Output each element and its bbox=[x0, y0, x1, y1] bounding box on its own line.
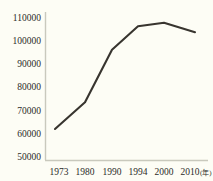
y-tick-label-70000: 70000 bbox=[17, 106, 41, 116]
x-tick-label-1973: 1973 bbox=[50, 167, 69, 177]
x-tick-label-1980: 1980 bbox=[76, 167, 95, 177]
x-tick-label-2000: 2000 bbox=[155, 167, 174, 177]
x-tick-label-1994: 1994 bbox=[129, 167, 148, 177]
y-tick-label-90000: 90000 bbox=[17, 59, 41, 69]
y-tick-label-100000: 100000 bbox=[13, 36, 42, 46]
x-tick-label-1990: 1990 bbox=[103, 167, 122, 177]
x-tick-label-2010: 2010 bbox=[181, 167, 200, 177]
y-tick-label-110000: 110000 bbox=[13, 13, 41, 23]
data-series-line bbox=[55, 23, 195, 129]
y-tick-label-50000: 50000 bbox=[17, 152, 41, 162]
y-tick-label-80000: 80000 bbox=[17, 82, 41, 92]
line-chart: 110000 100000 90000 80000 70000 60000 50… bbox=[0, 0, 213, 181]
y-tick-label-60000: 60000 bbox=[17, 129, 41, 139]
x-axis-unit-label: (年) bbox=[200, 168, 212, 177]
chart-canvas: 110000 100000 90000 80000 70000 60000 50… bbox=[0, 0, 213, 181]
